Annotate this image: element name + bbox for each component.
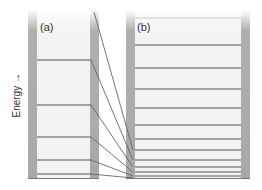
panel-a — [28, 10, 99, 179]
left-wall-b — [126, 10, 135, 178]
panel-b-label: (b) — [137, 21, 150, 33]
right-wall-b — [241, 10, 250, 178]
left-wall-a — [28, 10, 37, 178]
panel-b — [126, 10, 250, 179]
right-wall-a — [90, 10, 99, 178]
energy-axis-label: Energy → — [11, 58, 22, 118]
panel-a-label: (a) — [40, 21, 53, 33]
